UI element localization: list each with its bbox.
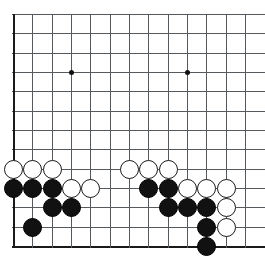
black-stone[interactable] (4, 179, 23, 198)
grid-line-horizontal (12, 130, 265, 131)
black-stone[interactable] (23, 179, 42, 198)
grid-line-horizontal (12, 72, 265, 73)
grid-line-horizontal (12, 111, 265, 112)
white-stone[interactable] (81, 179, 100, 198)
black-stone[interactable] (62, 198, 81, 217)
white-stone[interactable] (217, 198, 236, 217)
grid-line-vertical (90, 14, 91, 248)
white-stone[interactable] (197, 179, 216, 198)
go-board[interactable] (0, 0, 265, 268)
grid-line-vertical (245, 14, 246, 248)
grid-line-horizontal (12, 91, 265, 92)
star-point-1 (185, 70, 190, 75)
grid-line-vertical (129, 14, 130, 248)
black-stone[interactable] (43, 198, 62, 217)
board-bottom-edge (12, 246, 265, 248)
star-point-0 (69, 70, 74, 75)
white-stone[interactable] (217, 179, 236, 198)
grid-line-vertical (148, 14, 149, 248)
black-stone[interactable] (197, 237, 216, 256)
white-stone[interactable] (62, 179, 81, 198)
board-left-edge (13, 14, 15, 248)
white-stone[interactable] (178, 179, 197, 198)
grid-line-horizontal (12, 33, 265, 34)
black-stone[interactable] (178, 198, 197, 217)
grid-line-horizontal (12, 14, 265, 15)
white-stone[interactable] (139, 160, 158, 179)
black-stone[interactable] (23, 218, 42, 237)
black-stone[interactable] (139, 179, 158, 198)
white-stone[interactable] (43, 160, 62, 179)
grid-line-vertical (110, 14, 111, 248)
grid-line-horizontal (12, 53, 265, 54)
black-stone[interactable] (197, 198, 216, 217)
grid-line-horizontal (12, 149, 265, 150)
black-stone[interactable] (159, 179, 178, 198)
black-stone[interactable] (159, 198, 178, 217)
black-stone[interactable] (43, 179, 62, 198)
go-board-container (0, 0, 265, 268)
black-stone[interactable] (197, 218, 216, 237)
white-stone[interactable] (217, 218, 236, 237)
white-stone[interactable] (23, 160, 42, 179)
grid-line-vertical (32, 14, 33, 248)
white-stone[interactable] (4, 160, 23, 179)
white-stone[interactable] (120, 160, 139, 179)
white-stone[interactable] (159, 160, 178, 179)
